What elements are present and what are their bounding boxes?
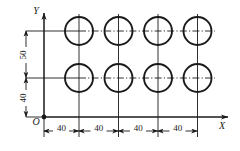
dim-label-v-50: 50 (18, 50, 28, 60)
y-axis-label: Y (33, 5, 40, 16)
vertical-dimension-labels: 50 40 (18, 47, 31, 106)
x-axis-label: X (218, 120, 226, 131)
horizontal-dimension-labels: 40 40 40 40 (53, 123, 186, 135)
hole-circles (65, 17, 212, 92)
origin-label: O (32, 116, 39, 127)
column-centerlines (79, 14, 198, 137)
row-centerlines (26, 31, 215, 78)
dim-label-h-4: 40 (173, 123, 183, 133)
dim-label-h-1: 40 (57, 123, 67, 133)
technical-drawing-canvas: X Y O 40 40 40 40 (0, 0, 240, 151)
dim-label-h-2: 40 (94, 123, 104, 133)
dim-label-h-3: 40 (134, 123, 144, 133)
engineering-drawing-svg: X Y O 40 40 40 40 (0, 0, 240, 151)
dim-label-v-40: 40 (18, 93, 28, 103)
